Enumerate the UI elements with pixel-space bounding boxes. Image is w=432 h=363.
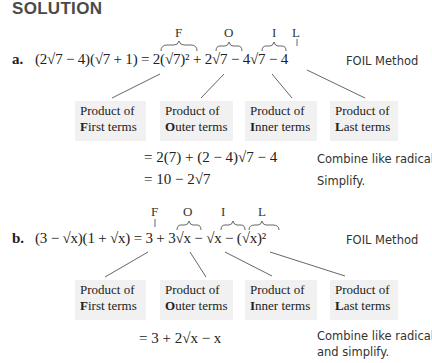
- box-a-last: Product of Last terms: [330, 101, 398, 141]
- part-a-label: a.: [12, 51, 23, 68]
- box-a-inner: Product of Inner terms: [245, 101, 317, 141]
- box-a-first: Product of First terms: [75, 101, 146, 141]
- part-b-method-note: FOIL Method: [346, 232, 418, 248]
- box-a-outer: Product of Outer terms: [160, 101, 233, 141]
- foil-letter-o-a: O: [224, 25, 233, 41]
- part-a-step-2-note: Simplify.: [317, 173, 365, 189]
- part-b-step-1-note-line2: and simplify.: [317, 344, 389, 360]
- part-b-step-1: = 3 + 2√x − x: [139, 330, 221, 347]
- part-b-step-1-note-line1: Combine like radicals: [317, 328, 432, 344]
- foil-letter-l-b: L: [258, 204, 266, 220]
- part-a-step-1: = 2(7) + (2 − 4)√7 − 4: [144, 149, 277, 166]
- part-a-step-1-note: Combine like radicals.: [317, 151, 432, 167]
- part-a-method-note: FOIL Method: [346, 53, 418, 69]
- part-a-expression: (2√7 − 4)(√7 + 1) = 2(√7)² + 2√7 − 4√7 −…: [35, 51, 288, 68]
- part-b-label: b.: [12, 230, 24, 247]
- box-b-inner: Product of Inner terms: [245, 280, 317, 320]
- box-b-outer: Product of Outer terms: [160, 280, 233, 320]
- foil-letter-i-a: I: [272, 25, 276, 41]
- box-b-last: Product of Last terms: [330, 280, 398, 320]
- box-b-first: Product of First terms: [75, 280, 146, 320]
- foil-letter-f-b: F: [151, 204, 158, 220]
- foil-letter-f-a: F: [175, 25, 182, 41]
- part-a-step-2: = 10 − 2√7: [144, 171, 210, 188]
- foil-letter-o-b: O: [183, 204, 192, 220]
- foil-letter-i-b: I: [221, 204, 225, 220]
- part-b-expression: (3 − √x)(1 + √x) = 3 + 3√x − √x − (√x)²: [35, 230, 266, 247]
- foil-letter-l-a: L: [292, 25, 300, 41]
